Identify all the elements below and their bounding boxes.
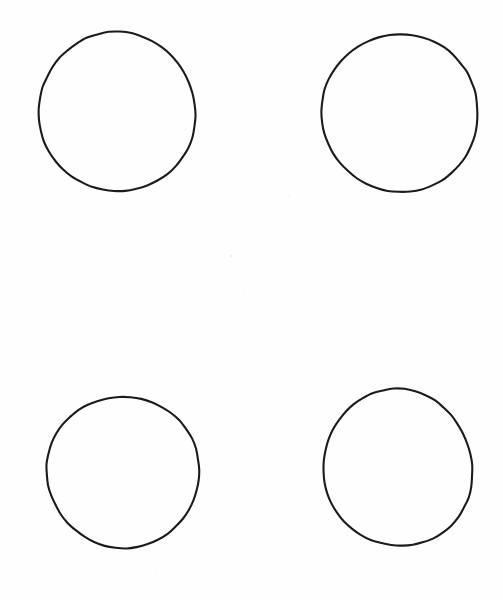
paper-speckle (394, 249, 396, 251)
page-background (0, 0, 503, 599)
paper-speckle (288, 194, 290, 196)
paper-speckle (174, 479, 175, 480)
circles-drawing-canvas (0, 0, 503, 599)
paper-speckle (19, 479, 21, 481)
paper-speckle (242, 293, 244, 295)
paper-speckle (467, 454, 468, 455)
paper-speckle (429, 299, 431, 301)
paper-speckle (154, 569, 156, 571)
paper-speckle (309, 349, 310, 350)
paper-speckle (245, 262, 247, 264)
paper-speckle (269, 429, 271, 431)
paper-speckle (344, 584, 346, 586)
paper-speckle (109, 249, 110, 250)
paper-speckle (230, 255, 232, 257)
paper-speckle (489, 119, 491, 121)
paper-speckle (199, 319, 200, 320)
scanned-page (0, 0, 503, 599)
paper-speckle (61, 111, 63, 113)
paper-speckle (87, 354, 89, 356)
